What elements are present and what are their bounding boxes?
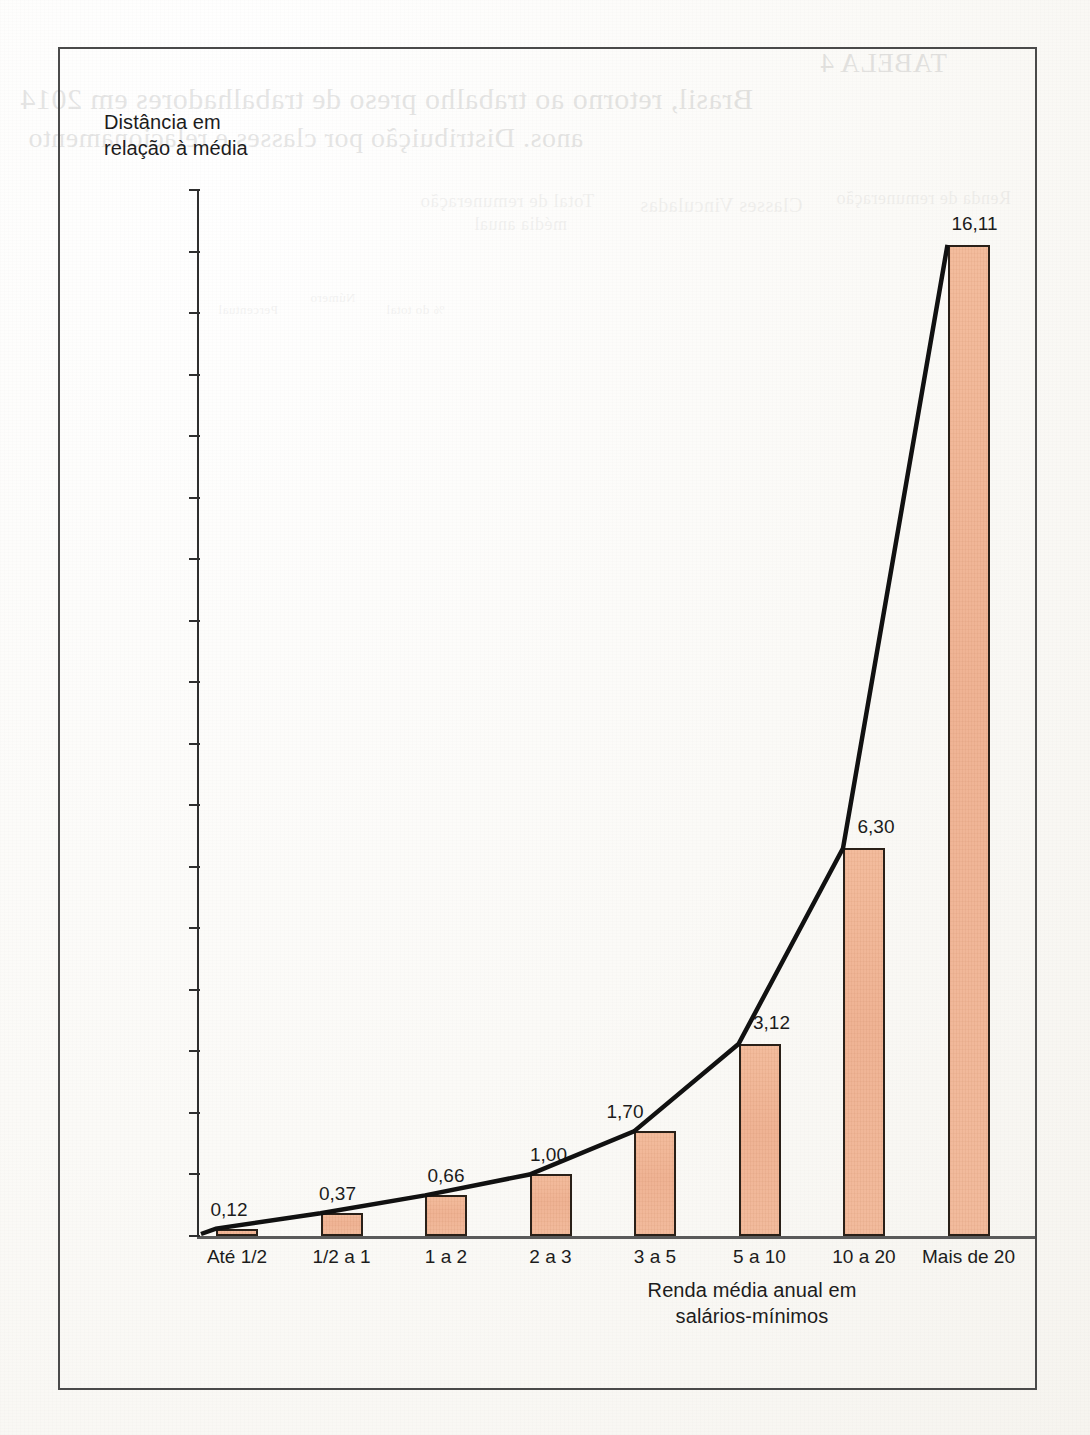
chart-frame: [58, 47, 1037, 1390]
